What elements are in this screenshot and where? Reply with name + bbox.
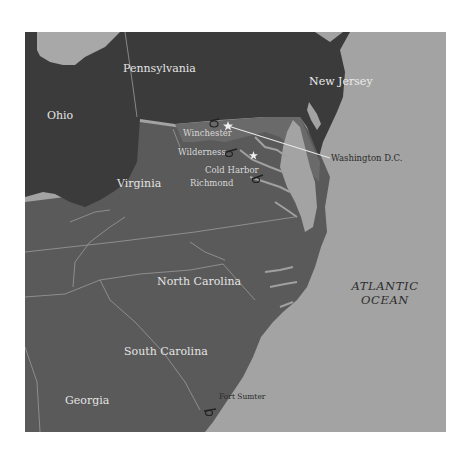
state-label-ohio: Ohio [47,110,73,121]
state-label-georgia: Georgia [65,395,109,406]
map-frame: Pennsylvania New Jersey Ohio Virginia No… [25,32,446,432]
star-icon [249,151,258,160]
ocean-label-line1: ATLANTIC [350,281,420,293]
site-label-wilderness: Wilderness [178,148,226,157]
state-label-new-jersey: New Jersey [309,76,373,87]
state-label-south-carolina: South Carolina [124,346,208,357]
cannon-icon [203,407,217,417]
ocean-label-line2: OCEAN [350,295,420,307]
cannon-icon [208,118,220,128]
state-label-north-carolina: North Carolina [157,276,241,287]
state-label-pennsylvania: Pennsylvania [123,63,196,74]
site-label-fort-sumter: Fort Sumter [219,393,265,401]
cannon-icon [224,148,238,158]
ocean-label: ATLANTIC OCEAN [350,281,420,306]
site-label-washington: Washington D.C. [331,154,402,163]
site-label-richmond: Richmond [190,179,233,188]
star-icon-washington [223,121,233,131]
state-label-virginia: Virginia [117,178,161,189]
map-shapes [25,32,446,432]
cannon-icon [250,174,264,184]
